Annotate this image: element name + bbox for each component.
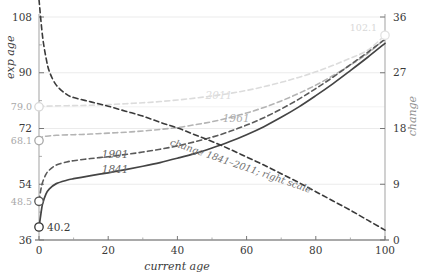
axis-marker-endpoint — [381, 31, 389, 39]
series-label-2011: 2011 — [205, 89, 233, 101]
x-axis-title: current age — [144, 260, 210, 273]
x-axis: 020406080100current age — [36, 236, 395, 273]
series-label-1961: 1961 — [223, 112, 250, 124]
marker-label-1901: 48.5 — [11, 196, 32, 207]
y-tick-label: 90 — [19, 66, 32, 78]
y2-tick-label: 0 — [393, 234, 400, 246]
series-line-1901 — [39, 39, 385, 201]
markers — [35, 31, 389, 231]
x-tick-label: 0 — [36, 244, 43, 256]
x-tick-label: 60 — [240, 244, 253, 256]
series-line-change-1841-2011 — [39, 0, 385, 230]
axes — [35, 14, 389, 240]
y2-tick-label: 36 — [393, 11, 407, 23]
y2-tick-label: 27 — [393, 66, 406, 78]
y-axis-right: 09182736change — [380, 11, 419, 246]
marker-labels: 79.068.148.540.2102.1 — [11, 22, 377, 233]
x-tick-label: 20 — [102, 244, 115, 256]
y-axis-right-title: change — [406, 95, 419, 136]
y2-tick-label: 9 — [393, 178, 400, 190]
series-label-1841: 1841 — [102, 163, 129, 175]
chart-svg: 020406080100current age36547290108exp ag… — [0, 0, 429, 276]
y-tick-label: 36 — [19, 234, 33, 246]
axis-marker-2011 — [35, 103, 43, 111]
axis-marker-1961 — [35, 136, 43, 144]
axis-marker-1901 — [35, 197, 43, 205]
series-label-1901: 1901 — [102, 148, 129, 160]
y-tick-label: 108 — [12, 11, 32, 23]
y-tick-label: 54 — [19, 178, 33, 190]
series-group — [39, 0, 385, 230]
series-line-1841 — [39, 43, 385, 227]
x-tick-label: 100 — [375, 244, 395, 256]
x-tick-label: 40 — [171, 244, 184, 256]
chart-container: 020406080100current age36547290108exp ag… — [0, 0, 429, 276]
y2-tick-label: 18 — [393, 122, 406, 134]
marker-label-1961: 68.1 — [11, 135, 32, 146]
marker-label-endpoint: 102.1 — [350, 22, 377, 33]
y-axis-left: 36547290108exp age — [4, 11, 44, 246]
x-tick-label: 80 — [309, 244, 322, 256]
y-tick-label: 72 — [19, 122, 32, 134]
y-axis-left-title: exp age — [4, 35, 17, 79]
axis-marker-1841 — [35, 223, 43, 231]
annotation-change-label: change 1841–2011; right scale — [169, 136, 313, 195]
annotations: change 1841–2011; right scale — [169, 136, 313, 195]
marker-label-2011: 79.0 — [11, 101, 32, 112]
marker-label-1841: 40.2 — [47, 221, 70, 233]
